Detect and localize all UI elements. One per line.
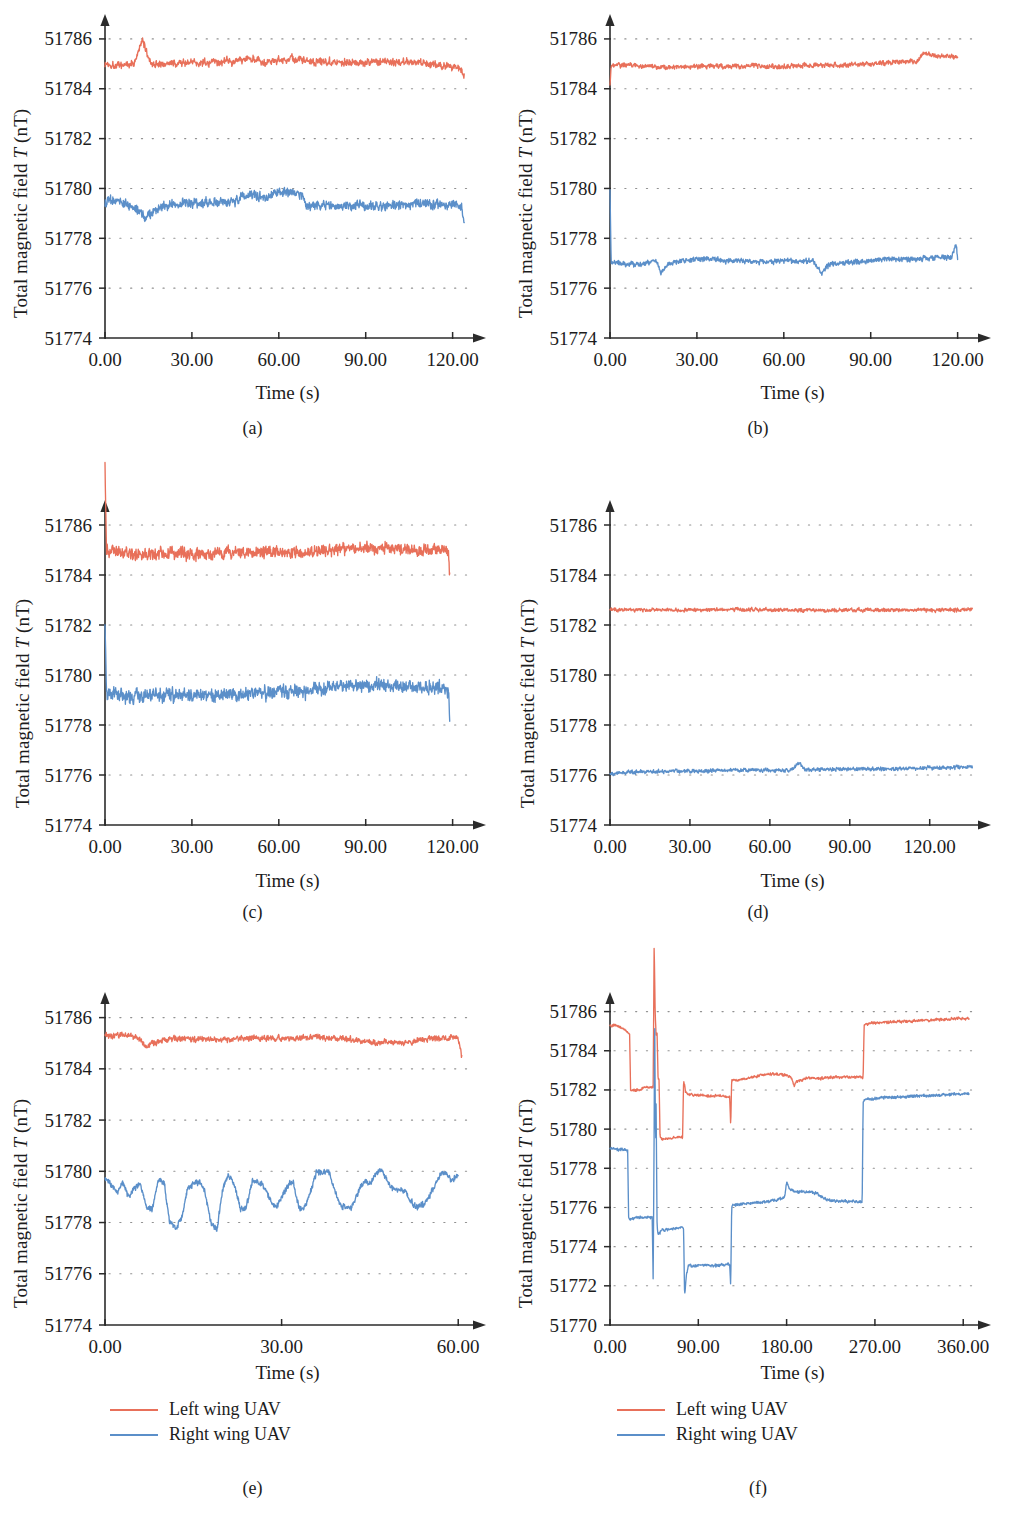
- series-line-left-wing: [610, 607, 972, 612]
- legend-swatch-left-wing: [110, 1409, 158, 1411]
- y-axis-ticks: 51774517765177851780517825178451786: [550, 515, 612, 836]
- y-tick-label: 51786: [45, 1007, 93, 1028]
- axes: [605, 992, 991, 1330]
- y-tick-label: 51786: [550, 1001, 598, 1022]
- y-tick-label: 51776: [550, 1197, 598, 1218]
- y-axis-label-prefix: Total magnetic field: [517, 648, 538, 808]
- x-tick-label: 30.00: [676, 349, 719, 370]
- y-tick-label: 51784: [550, 565, 598, 586]
- x-tick-label: 120.00: [426, 349, 478, 370]
- series-line-left-wing: [105, 1032, 462, 1057]
- x-tick-label: 120.00: [426, 836, 478, 857]
- y-axis-label-unit: (nT): [517, 599, 538, 638]
- y-axis-ticks: 51774517765177851780517825178451786: [45, 1007, 107, 1335]
- y-tick-label: 51784: [550, 1040, 598, 1061]
- x-tick-label: 30.00: [669, 836, 712, 857]
- y-axis-label-unit: (nT): [515, 1099, 536, 1138]
- y-tick-label: 51782: [550, 1079, 598, 1100]
- y-tick-label: 51774: [45, 815, 93, 836]
- legend-swatch-right-wing: [617, 1434, 665, 1436]
- y-axis-label: Total magnetic field T (nT): [10, 1008, 32, 1308]
- legend-label: Left wing UAV: [676, 1397, 788, 1422]
- legend: Left wing UAVRight wing UAV: [110, 1397, 291, 1447]
- x-tick-label: 60.00: [437, 1336, 480, 1357]
- y-axis-label-symbol: T: [515, 148, 536, 159]
- y-tick-label: 51782: [45, 128, 93, 149]
- series-line-left-wing: [610, 52, 958, 85]
- y-tick-label: 51774: [45, 328, 93, 349]
- series-line-right-wing: [105, 187, 464, 222]
- panel-f: 5177051772517745177651778517805178251784…: [505, 930, 1011, 1516]
- panel-tag: (a): [0, 418, 505, 439]
- x-axis-label: Time (s): [570, 382, 1011, 404]
- y-axis-label-unit: (nT): [515, 109, 536, 148]
- legend-label: Left wing UAV: [169, 1397, 281, 1422]
- x-tick-label: 120.00: [904, 836, 956, 857]
- y-tick-label: 51784: [550, 78, 598, 99]
- y-tick-label: 51782: [45, 1110, 93, 1131]
- series-line-right-wing: [105, 625, 450, 722]
- series-line-left-wing: [610, 948, 969, 1140]
- y-axis-label: Total magnetic field T (nT): [12, 518, 34, 808]
- y-axis-label-unit: (nT): [10, 109, 31, 148]
- y-tick-label: 51774: [550, 1236, 598, 1257]
- gridlines: [109, 39, 468, 288]
- y-axis-label-symbol: T: [517, 638, 538, 649]
- y-axis-label: Total magnetic field T (nT): [10, 28, 32, 318]
- x-tick-label: 60.00: [762, 349, 805, 370]
- y-tick-label: 51778: [45, 1212, 93, 1233]
- y-tick-label: 51782: [550, 615, 598, 636]
- y-tick-label: 51778: [550, 715, 598, 736]
- x-tick-label: 60.00: [257, 836, 300, 857]
- figure-grid: 517745177651778517805178251784517860.003…: [0, 0, 1011, 1516]
- y-axis-label-symbol: T: [10, 148, 31, 159]
- legend-label: Right wing UAV: [676, 1422, 798, 1447]
- plot-area-c: 517745177651778517805178251784517860.003…: [0, 450, 505, 930]
- x-tick-label: 90.00: [828, 836, 871, 857]
- y-axis-ticks: 5177051772517745177651778517805178251784…: [550, 1001, 612, 1335]
- y-tick-label: 51782: [550, 128, 598, 149]
- y-tick-label: 51786: [550, 28, 598, 49]
- x-tick-label: 0.00: [593, 1336, 626, 1357]
- panel-tag: (b): [505, 418, 1011, 439]
- y-tick-label: 51770: [550, 1315, 598, 1336]
- gridlines: [614, 1012, 973, 1286]
- y-axis-label-symbol: T: [12, 638, 33, 649]
- panel-e: 517745177651778517805178251784517860.003…: [0, 930, 505, 1516]
- x-tick-label: 60.00: [748, 836, 791, 857]
- plot-area-d: 517745177651778517805178251784517860.003…: [505, 450, 1011, 930]
- x-tick-label: 120.00: [931, 349, 983, 370]
- y-axis-label-prefix: Total magnetic field: [515, 1148, 536, 1308]
- y-tick-label: 51778: [550, 228, 598, 249]
- x-tick-label: 30.00: [260, 1336, 303, 1357]
- y-tick-label: 51784: [45, 78, 93, 99]
- y-tick-label: 51776: [550, 278, 598, 299]
- chart-svg-c: 517745177651778517805178251784517860.003…: [0, 450, 505, 930]
- gridlines: [614, 525, 973, 775]
- y-axis-ticks: 51774517765177851780517825178451786: [45, 515, 107, 836]
- x-tick-label: 90.00: [849, 349, 892, 370]
- y-axis-label-unit: (nT): [10, 1099, 31, 1138]
- y-tick-label: 51780: [45, 665, 93, 686]
- y-tick-label: 51780: [550, 178, 598, 199]
- panel-tag: (e): [0, 1478, 505, 1499]
- plot-area-a: 517745177651778517805178251784517860.003…: [0, 0, 505, 450]
- legend-item: Left wing UAV: [110, 1397, 291, 1422]
- x-tick-label: 0.00: [88, 349, 121, 370]
- legend-item: Right wing UAV: [110, 1422, 291, 1447]
- y-axis-label: Total magnetic field T (nT): [517, 518, 539, 808]
- y-tick-label: 51774: [550, 815, 598, 836]
- x-tick-label: 0.00: [88, 1336, 121, 1357]
- legend-swatch-right-wing: [110, 1434, 158, 1436]
- x-axis-label: Time (s): [65, 870, 510, 892]
- y-tick-label: 51778: [45, 715, 93, 736]
- y-tick-label: 51786: [45, 28, 93, 49]
- y-axis-ticks: 51774517765177851780517825178451786: [45, 28, 107, 348]
- x-tick-label: 0.00: [593, 349, 626, 370]
- y-tick-label: 51782: [45, 615, 93, 636]
- x-tick-label: 0.00: [88, 836, 121, 857]
- x-tick-label: 30.00: [171, 349, 214, 370]
- panel-tag: (d): [505, 902, 1011, 923]
- x-tick-label: 360.00: [937, 1336, 989, 1357]
- y-axis-label: Total magnetic field T (nT): [515, 28, 537, 318]
